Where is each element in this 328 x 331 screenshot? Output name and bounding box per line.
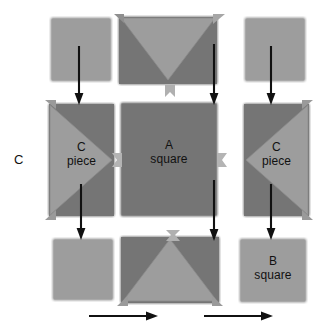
label-r3c3-line2: square [238,268,308,282]
arrow-down-col1-bottom [75,184,87,241]
piece-r3c1-plain-square [51,237,115,302]
corner-nub-r1c2-right [213,14,225,24]
label-r3c3-line1: B [238,254,308,268]
arrow-right-2 [204,310,274,322]
label-r2c3-line1: C [242,140,311,154]
label-r2c1: C piece [47,140,116,168]
label-side-c: C [14,152,23,167]
arrow-down-col3-bottom [265,184,277,241]
label-r2c3: C piece [242,140,311,168]
connector-bowtie-bottom [165,229,181,242]
corner-nub-r2c1-topleft [45,100,56,109]
label-r2c2-line2: square [119,152,219,166]
arrow-down-col1-top [73,46,85,106]
label-r2c2-line1: A [119,138,219,152]
label-r3c3: B square [238,254,308,282]
arrow-right-1 [89,310,159,322]
arrow-down-col3-top [265,46,277,106]
label-r2c2: A square [119,138,219,166]
diagram-canvas: C piece A square C piece B square C [0,0,328,331]
piece-r1c2-triangle-down [117,15,219,86]
arrow-down-col2-top [208,44,220,106]
arrow-down-col2-bottom [208,180,220,242]
corner-nub-r2c1-bottomleft [45,210,56,220]
connector-bowtie-top [163,84,177,98]
label-r2c1-line1: C [47,140,116,154]
corner-nub-r2c3-bottomright [302,210,313,220]
corner-nub-r3c2-bottomleft [117,296,128,306]
piece-r3c2-triangle-up [119,235,221,305]
corner-nub-r2c3-topright [302,100,313,109]
label-r2c3-line2: piece [242,154,311,168]
label-r2c1-line2: piece [47,154,116,168]
corner-nub-r3c2-bottomright [212,296,223,306]
corner-nub-r1c2-left [114,14,124,23]
